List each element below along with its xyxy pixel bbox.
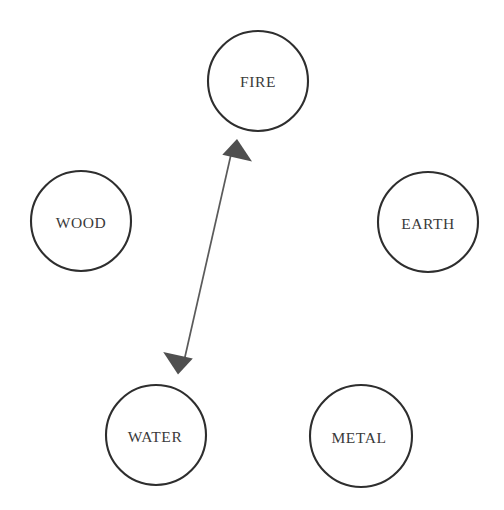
node-earth[interactable]: EARTH bbox=[378, 172, 478, 272]
diagram-canvas: FIRE WOOD EARTH WATER METAL bbox=[0, 0, 504, 510]
node-wood-label: WOOD bbox=[56, 214, 107, 231]
node-metal[interactable]: METAL bbox=[310, 385, 412, 487]
node-fire-label: FIRE bbox=[240, 73, 276, 90]
arrowhead-up-icon bbox=[222, 139, 252, 162]
node-water-label: WATER bbox=[128, 428, 183, 445]
node-water[interactable]: WATER bbox=[106, 385, 206, 485]
node-earth-label: EARTH bbox=[401, 215, 455, 232]
edge-water-fire-line bbox=[184, 152, 232, 363]
node-wood[interactable]: WOOD bbox=[31, 171, 131, 271]
arrowhead-down-icon bbox=[163, 352, 193, 375]
node-fire[interactable]: FIRE bbox=[208, 31, 308, 131]
edge-water-fire[interactable] bbox=[163, 139, 252, 375]
node-metal-label: METAL bbox=[331, 429, 386, 446]
five-elements-diagram: FIRE WOOD EARTH WATER METAL bbox=[0, 0, 504, 510]
